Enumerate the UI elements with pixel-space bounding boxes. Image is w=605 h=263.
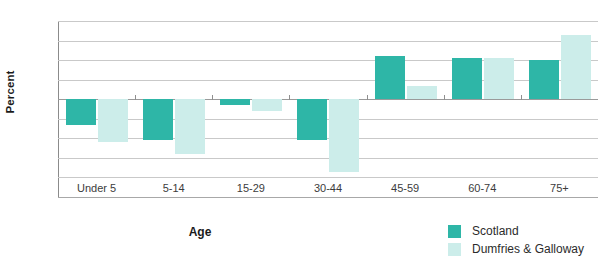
legend-item: Dumfries & Galloway bbox=[448, 240, 584, 258]
legend-swatch-icon bbox=[448, 225, 461, 238]
bar-dumfries-galloway bbox=[329, 99, 359, 171]
bar-dumfries-galloway bbox=[175, 99, 205, 154]
axis-tick bbox=[521, 95, 522, 100]
legend-label: Scotland bbox=[472, 224, 519, 238]
bar-dumfries-galloway bbox=[561, 35, 591, 100]
bar-scotland bbox=[143, 99, 173, 140]
bar-scotland bbox=[297, 99, 327, 140]
bar-dumfries-galloway bbox=[484, 58, 514, 99]
axis-tick bbox=[212, 95, 213, 100]
bar-group bbox=[135, 21, 212, 197]
axis-tick bbox=[367, 95, 368, 100]
bar-scotland bbox=[66, 99, 96, 124]
bar-chart: Percent 403020100-10-20-30-40-50 Age Sco… bbox=[0, 0, 605, 263]
gridline bbox=[58, 197, 598, 198]
bar-group bbox=[367, 21, 444, 197]
bar-group bbox=[289, 21, 366, 197]
bar-group bbox=[444, 21, 521, 197]
bar-group bbox=[521, 21, 598, 197]
x-tick-label: 75+ bbox=[514, 182, 604, 194]
bar-scotland bbox=[452, 58, 482, 99]
bar-dumfries-galloway bbox=[252, 99, 282, 111]
plot-area: 403020100-10-20-30-40-50 bbox=[58, 21, 598, 197]
legend-swatch-icon bbox=[448, 243, 461, 256]
bar-group bbox=[58, 21, 135, 197]
bar-scotland bbox=[375, 56, 405, 99]
x-axis-title: Age bbox=[0, 225, 400, 239]
y-axis-title: Percent bbox=[4, 60, 16, 124]
bar-dumfries-galloway bbox=[407, 86, 437, 100]
bar-group bbox=[212, 21, 289, 197]
bar-scotland bbox=[220, 99, 250, 105]
axis-tick bbox=[289, 95, 290, 100]
bar-scotland bbox=[529, 60, 559, 99]
axis-tick bbox=[444, 95, 445, 100]
legend-label: Dumfries & Galloway bbox=[472, 242, 584, 256]
bar-dumfries-galloway bbox=[98, 99, 128, 142]
chart-legend: ScotlandDumfries & Galloway bbox=[448, 222, 584, 258]
legend-item: Scotland bbox=[448, 222, 584, 240]
axis-tick bbox=[135, 95, 136, 100]
